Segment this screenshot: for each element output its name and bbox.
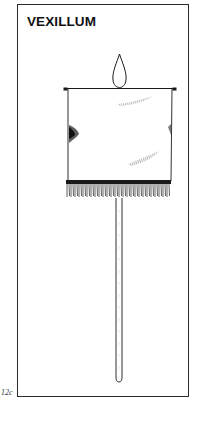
vexillum-illustration xyxy=(0,0,201,421)
pole xyxy=(116,198,122,382)
fringe xyxy=(66,180,171,197)
flame-finial-icon xyxy=(113,54,126,88)
banner xyxy=(68,89,172,181)
